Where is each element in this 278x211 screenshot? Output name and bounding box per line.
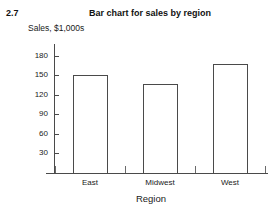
x-category-label: Midwest — [145, 178, 174, 187]
y-axis-label: Sales, $1,000s — [28, 23, 84, 33]
x-tick-mark — [55, 166, 56, 173]
x-tick-mark — [125, 166, 126, 173]
y-tick-mark — [54, 95, 59, 96]
y-tick-label: 180 — [14, 51, 48, 60]
bar-midwest — [143, 84, 178, 173]
y-tick-mark — [54, 75, 59, 76]
x-tick-mark — [195, 166, 196, 173]
figure-container: 2.7 Bar chart for sales by region Sales,… — [0, 0, 278, 211]
y-tick-mark — [54, 56, 59, 57]
y-tick-label: 120 — [14, 90, 48, 99]
y-tick-mark — [54, 153, 59, 154]
y-tick-label: 150 — [14, 70, 48, 79]
x-axis-label: Region — [0, 193, 278, 204]
x-axis-line — [46, 173, 268, 174]
y-tick-mark — [54, 134, 59, 135]
x-tick-mark — [265, 166, 266, 173]
y-tick-label: 30 — [14, 148, 48, 157]
bar-west — [213, 64, 248, 173]
chart-title: Bar chart for sales by region — [0, 8, 278, 18]
y-tick-mark — [54, 114, 59, 115]
x-category-label: East — [82, 178, 98, 187]
x-category-label: West — [221, 178, 239, 187]
bar-east — [73, 75, 108, 173]
y-tick-label: 90 — [14, 109, 48, 118]
y-axis-line — [54, 44, 55, 174]
y-tick-label: 60 — [14, 129, 48, 138]
